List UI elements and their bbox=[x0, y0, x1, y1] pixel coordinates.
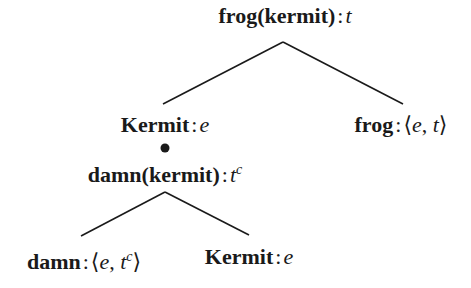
node-left-type: e bbox=[199, 112, 209, 137]
angle-close: ⟩ bbox=[439, 112, 448, 137]
node-ci-expr: damn(kermit) bbox=[88, 162, 220, 187]
node-right: frog:⟨e, t⟩ bbox=[355, 112, 448, 138]
node-ci-left-expr: damn bbox=[27, 249, 81, 274]
node-right-expr: frog bbox=[355, 112, 394, 137]
edge-ci-left bbox=[81, 192, 165, 236]
type-separator: : bbox=[189, 112, 199, 137]
edge-ci-right bbox=[165, 192, 249, 235]
node-ci: damn(kermit):tc bbox=[88, 157, 242, 188]
type-separator: : bbox=[393, 112, 403, 137]
type-arg: e bbox=[412, 112, 422, 137]
node-root-expr: frog(kermit) bbox=[218, 3, 335, 28]
type-superscript: c bbox=[236, 162, 242, 177]
node-ci-right-type: e bbox=[283, 244, 293, 269]
composition-tree: frog(kermit):t Kermit:e frog:⟨e, t⟩ damn… bbox=[0, 0, 471, 288]
type-comma: , bbox=[109, 249, 115, 274]
node-left-expr: Kermit bbox=[121, 112, 189, 137]
node-root-type: t bbox=[345, 3, 351, 28]
edge-root-left bbox=[163, 42, 283, 104]
node-left: Kermit:e bbox=[121, 112, 209, 138]
type-separator: : bbox=[220, 162, 230, 187]
node-ci-left: damn:⟨e, tc⟩ bbox=[27, 244, 141, 275]
type-arg: e bbox=[99, 249, 109, 274]
angle-close: ⟩ bbox=[133, 249, 142, 274]
node-ci-right: Kermit:e bbox=[205, 244, 293, 270]
type-separator: : bbox=[81, 249, 91, 274]
angle-open: ⟨ bbox=[91, 249, 100, 274]
type-separator: : bbox=[273, 244, 283, 269]
type-separator: : bbox=[335, 3, 345, 28]
node-ci-right-expr: Kermit bbox=[205, 244, 273, 269]
type-comma: , bbox=[422, 112, 428, 137]
bullet-icon bbox=[161, 144, 170, 153]
edge-root-right bbox=[283, 42, 403, 104]
node-root: frog(kermit):t bbox=[218, 3, 351, 29]
